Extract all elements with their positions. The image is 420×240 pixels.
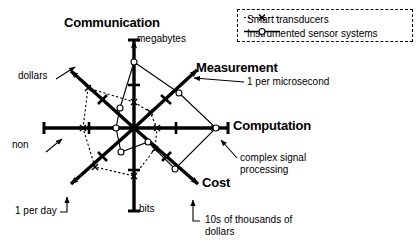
datapoint-instrumented-dollars: [117, 105, 123, 111]
annotation-cost-line1: 10s of thousands of: [205, 214, 292, 226]
radar-chart-figure: Communication Measurement Computation Co…: [0, 0, 420, 240]
legend-swatch-smart-transducers: [243, 12, 281, 23]
axis-unit-dollars: dollars: [18, 70, 47, 81]
annotation-computation-note: complex signal processing: [240, 152, 306, 175]
series-smart-transducers: [80, 85, 160, 179]
axis-title-measurement: Measurement: [196, 60, 278, 75]
datapoint-instrumented-non: [113, 125, 119, 131]
series-markers-smart: [80, 85, 160, 179]
datapoint-instrumented-computation: [213, 125, 219, 131]
axis-unit-bits: bits: [139, 203, 155, 214]
datapoint-instrumented-one-per-day: [118, 149, 124, 155]
annotation-computation-line2: processing: [240, 164, 306, 176]
annotation-measurement-note: 1 per microsecond: [247, 76, 329, 88]
chart-legend: Smart transducers Instrumented sensor sy…: [237, 9, 413, 42]
axis-title-cost: Cost: [202, 175, 230, 190]
datapoint-instrumented-bits: [145, 139, 151, 145]
leader-one-per-day: [60, 197, 67, 212]
leader-non: [46, 139, 62, 152]
leader-measurement: [194, 78, 244, 82]
axis-unit-non: non: [12, 139, 29, 150]
circle-marker-icon: [259, 29, 265, 35]
datapoint-instrumented-cost: [172, 166, 178, 172]
annotation-computation-line1: complex signal: [240, 152, 306, 164]
datapoint-instrumented-measurement: [176, 90, 182, 96]
legend-swatch-instrumented-sensor-systems: [243, 26, 281, 37]
leader-computation: [221, 140, 237, 158]
legend-item-smart-transducers: Smart transducers: [243, 12, 329, 26]
axis-unit-megabytes: megabytes: [137, 33, 186, 44]
axis-unit-one-per-day: 1 per day: [15, 205, 57, 216]
annotation-cost-note: 10s of thousands of dollars: [205, 214, 292, 237]
axis-title-communication: Communication: [64, 15, 160, 30]
axis-title-computation: Computation: [233, 118, 311, 133]
annotation-leaders: [46, 67, 244, 221]
annotation-cost-line2: dollars: [205, 226, 292, 238]
legend-item-instrumented-sensor-systems: Instrumented sensor systems: [243, 26, 378, 40]
datapoint-instrumented-communication: [131, 59, 137, 65]
leader-cost: [193, 200, 200, 221]
